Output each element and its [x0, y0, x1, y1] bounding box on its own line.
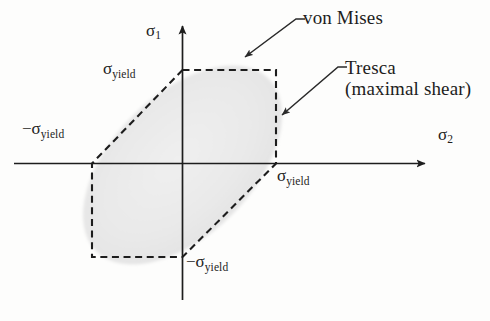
annotation-von-mises: von Mises — [303, 8, 383, 29]
yield-surface-figure: σ1 σ2 σyield σyield −σyield −σyield von … — [0, 0, 490, 321]
tresca-leader — [282, 67, 347, 115]
sigma-2-subscript: 2 — [447, 133, 453, 145]
annotation-tresca-line1: Tresca — [345, 58, 471, 79]
tick-label-sigma-yield-right: σyield — [277, 167, 310, 187]
sigma-symbol: −σ — [22, 119, 41, 138]
tick-label-sigma-yield-top: σyield — [103, 60, 136, 80]
sigma-1-subscript: 1 — [155, 29, 161, 41]
sigma-subscript: yield — [205, 261, 229, 273]
tick-label-negative-sigma-yield-bottom: −σyield — [186, 253, 228, 273]
sigma-symbol: σ — [103, 59, 112, 78]
sigma-1-symbol: σ — [146, 21, 155, 40]
sigma-subscript: yield — [286, 175, 310, 187]
sigma-symbol: σ — [277, 166, 286, 185]
diagram-canvas — [0, 0, 490, 321]
sigma-2-symbol: σ — [438, 125, 447, 144]
annotation-von-mises-line1: von Mises — [303, 7, 383, 28]
von-mises-leader — [245, 19, 305, 57]
sigma-1-axis-label: σ1 — [146, 22, 161, 42]
annotation-tresca: Tresca (maximal shear) — [345, 58, 471, 99]
sigma-subscript: yield — [41, 128, 65, 140]
sigma-subscript: yield — [112, 68, 136, 80]
annotation-tresca-line2: (maximal shear) — [345, 79, 471, 100]
tick-label-negative-sigma-yield-left: −σyield — [22, 120, 64, 140]
sigma-symbol: −σ — [186, 252, 205, 271]
sigma-2-axis-label: σ2 — [438, 126, 453, 146]
